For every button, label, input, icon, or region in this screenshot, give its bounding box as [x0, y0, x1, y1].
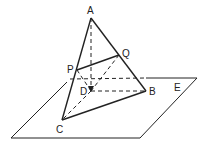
plane-e: [11, 78, 197, 138]
label-q: Q: [122, 48, 130, 59]
label-b: B: [149, 86, 156, 97]
visible-edges: [62, 18, 146, 120]
pyramid-diagram: A Q P D B C E: [0, 0, 209, 150]
label-d: D: [80, 86, 87, 97]
label-p: P: [67, 64, 74, 75]
label-e: E: [174, 82, 181, 93]
label-c: C: [56, 124, 63, 135]
hidden-edges: [62, 18, 146, 120]
label-a: A: [87, 5, 94, 16]
